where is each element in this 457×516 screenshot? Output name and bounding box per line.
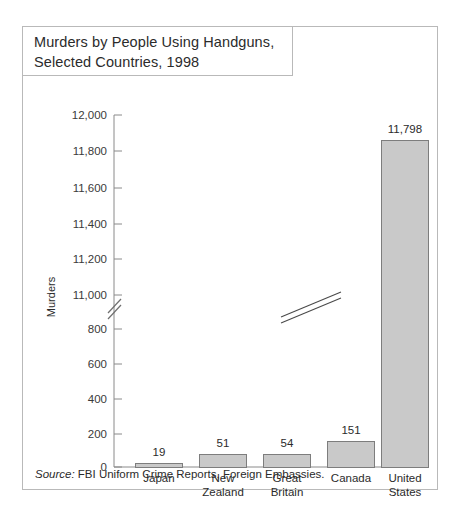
x-axis-label-canada-line-1: Canada [323, 471, 379, 485]
chart-title-box: Murders by People Using Handguns, Select… [22, 26, 293, 76]
bar-value-japan: 19 [135, 446, 183, 458]
chart-title-line-1: Murders by People Using Handguns, [34, 32, 292, 52]
bar-value-great-britain: 54 [263, 437, 311, 449]
bar-new-zealand [199, 454, 247, 468]
bar-value-united-states: 11,798 [375, 123, 435, 135]
source-note: Source: FBI Uniform Crime Reports, Forei… [35, 468, 325, 480]
x-axis-label-great-britain-line-2: Britain [259, 485, 315, 499]
chart-figure: Murders by People Using Handguns, Select… [22, 26, 438, 490]
bar-united-states [381, 140, 429, 468]
x-axis-label-united-states-line-1: United [377, 471, 433, 485]
bar-value-new-zealand: 51 [199, 437, 247, 449]
bar-great-britain [263, 454, 311, 468]
bar-canada [327, 441, 375, 468]
source-label: Source: [35, 468, 75, 480]
x-axis-label-canada: Canada [323, 471, 379, 485]
x-axis-label-united-states: United States [377, 471, 433, 499]
x-axis-label-new-zealand-line-2: Zealand [195, 485, 251, 499]
bar-value-canada: 151 [327, 424, 375, 436]
x-axis-label-united-states-line-2: States [377, 485, 433, 499]
chart-title-line-2: Selected Countries, 1998 [34, 52, 292, 72]
plot-area: Murders 0 200 400 600 800 11,000 11,200 … [23, 77, 437, 489]
source-text: FBI Uniform Crime Reports, Foreign Embas… [75, 468, 325, 480]
